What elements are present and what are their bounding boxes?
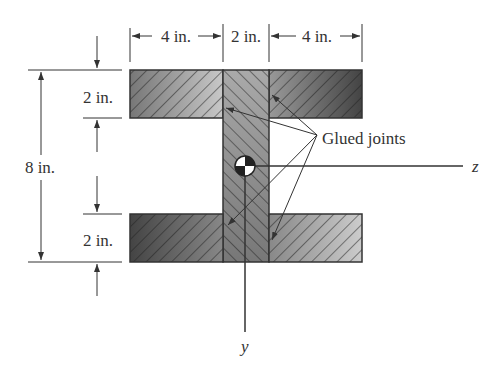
dim-top-flange-height: 2 in. — [83, 88, 113, 107]
dim-top-left: 4 in. — [161, 27, 191, 46]
z-axis-label: z — [471, 157, 479, 176]
dim-bottom-flange-height: 2 in. — [83, 231, 113, 250]
glued-joints-label: Glued joints — [322, 129, 406, 148]
bottom-flange-left — [130, 214, 223, 262]
centroid-icon — [235, 156, 255, 176]
dim-top-mid: 2 in. — [231, 27, 261, 46]
top-flange-left — [130, 70, 223, 118]
top-flange-right — [269, 70, 362, 118]
y-axis-label: y — [239, 337, 249, 356]
i-beam-diagram: 4 in. 2 in. 4 in. 2 in. 2 in. 8 in. z y … — [0, 0, 501, 370]
dim-top-right: 4 in. — [302, 27, 332, 46]
bottom-flange-right — [269, 214, 362, 262]
dim-total-height: 8 in. — [25, 158, 55, 177]
